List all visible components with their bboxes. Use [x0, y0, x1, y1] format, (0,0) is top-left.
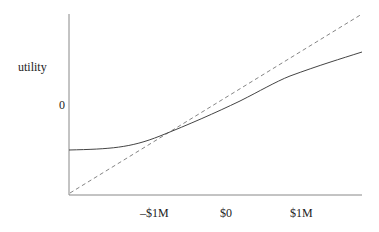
- y-axis-label: utility: [18, 60, 47, 74]
- linear-reference-line: [70, 14, 362, 193]
- x-tick-neg1m: –$1M: [140, 206, 169, 220]
- utility-curve: [69, 52, 362, 150]
- x-tick-0: $0: [220, 206, 232, 220]
- y-zero-label: 0: [59, 98, 65, 112]
- utility-diagram: [0, 0, 379, 232]
- x-tick-1m: $1M: [290, 206, 313, 220]
